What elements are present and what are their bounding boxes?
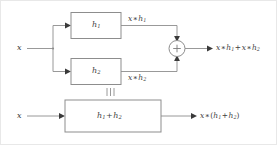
top-output-h2-sub: 2 [257, 46, 260, 52]
branch2-signal-label: x∗h2 [128, 74, 146, 82]
branch1-signal-label: x∗h1 [128, 15, 146, 23]
bottom-block-h2-sub: 2 [118, 114, 121, 120]
block-h2-label: h2 [92, 67, 101, 75]
branch2-input-arrowhead [65, 69, 71, 75]
block-h1-label-sub: 1 [97, 23, 100, 29]
branch1-signal-h-sub: 1 [143, 17, 146, 23]
bottom-input-label: x [17, 112, 22, 120]
bottom-output-arrowhead [191, 113, 197, 119]
top-input-label: x [17, 44, 22, 52]
bottom-output-close-paren: ) [237, 111, 240, 120]
top-output-arrowhead [207, 46, 213, 52]
branch2-signal-h-sub: 2 [143, 76, 146, 82]
top-output-label: x∗h1+x∗h2 [216, 44, 260, 52]
bottom-input-label-text: x [17, 111, 22, 120]
top-output-plus: + [234, 43, 241, 52]
top-split-node [52, 47, 54, 49]
block-h1-label: h1 [92, 21, 101, 29]
top-input-label-text: x [17, 43, 22, 52]
bottom-output-plus: + [221, 111, 228, 120]
bottom-input-arrowhead [59, 113, 65, 119]
bottom-output-label: x∗(h1+h2) [200, 112, 240, 120]
branch1-input-arrowhead [65, 23, 71, 29]
diagram-canvas: x h1 x∗h1 h2 x∗h2 x∗h1+x∗h2 x h1+h2 x∗(h… [0, 0, 277, 145]
bottom-block-h1-sub: 1 [102, 114, 105, 120]
block-h2-label-sub: 2 [97, 69, 100, 75]
block-h1-plus-h2-label: h1+h2 [97, 112, 122, 120]
